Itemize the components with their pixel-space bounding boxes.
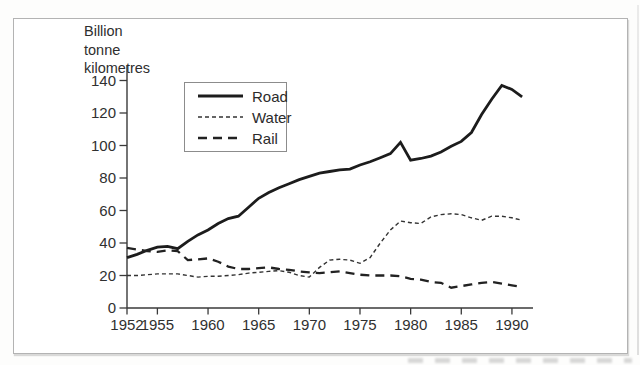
x-tick-label: 1970 [293,316,326,333]
series-line-water [127,214,522,277]
y-tick-label: 120 [91,104,116,121]
x-tick-label: 1952 [110,316,143,333]
scanned-chart-page: Billion tonne kilometres 020406080100120… [0,0,640,365]
x-tick-label: 1975 [343,316,376,333]
scan-artifact-caption-smudge [408,358,632,363]
legend-label: Water [252,109,291,126]
legend-line-sample-rail [197,134,244,142]
x-tick-label: 1990 [495,316,528,333]
y-tick-label: 20 [99,267,116,284]
legend-item-water: Water [197,110,286,125]
x-tick-label: 1965 [242,316,275,333]
line-chart-plot: 0204060801001201401952195519601965197019… [0,0,640,365]
series-line-rail [127,248,522,288]
legend-box: RoadWaterRail [184,82,287,152]
y-tick-label: 140 [91,72,116,89]
legend-label: Road [252,88,288,105]
y-tick-label: 80 [99,169,116,186]
y-tick-label: 60 [99,202,116,219]
legend-item-rail: Rail [197,131,286,146]
scan-artifact-page-edge [637,5,639,355]
x-tick-label: 1960 [191,316,224,333]
x-tick-label: 1955 [141,316,174,333]
legend-item-road: Road [197,89,286,104]
y-tick-label: 0 [108,299,116,316]
legend-label: Rail [252,130,278,147]
y-tick-label: 40 [99,234,116,251]
y-tick-label: 100 [91,137,116,154]
legend-line-sample-water [197,113,244,121]
legend-line-sample-road [197,92,244,100]
x-tick-label: 1980 [394,316,427,333]
x-tick-label: 1985 [445,316,478,333]
